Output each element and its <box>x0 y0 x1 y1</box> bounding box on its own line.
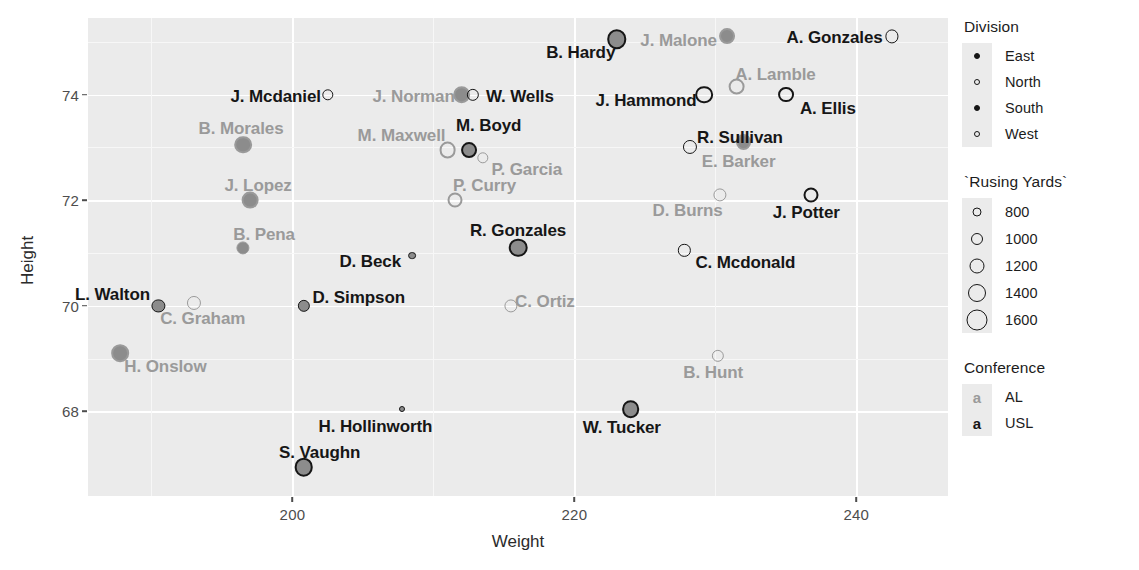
x-axis-tick-mark <box>856 497 858 502</box>
grid-line-horizontal <box>88 200 948 202</box>
grid-line-horizontal <box>88 411 948 413</box>
legend-item-rushing-yards-1600[interactable]: 1600 <box>962 306 1137 333</box>
y-axis-tick-mark <box>82 305 87 307</box>
legend-item-division-north[interactable]: North <box>962 69 1137 95</box>
data-point-label: L. Walton <box>75 285 150 305</box>
legend-key-size-marker <box>962 306 992 333</box>
data-point-label: D. Beck <box>339 252 401 272</box>
data-point-label: C. Ortiz <box>515 292 575 312</box>
data-point-label: J. Norman <box>372 87 454 107</box>
legend-conference: Conference aALaUSL <box>962 359 1137 436</box>
legend-division-title: Division <box>964 18 1137 36</box>
data-point-label: R. Sullivan <box>697 128 783 148</box>
y-axis-tick-label: 74 <box>62 86 79 103</box>
data-point-label: D. Simpson <box>312 288 405 308</box>
grid-line-horizontal-minor <box>88 359 948 360</box>
data-point-label: P. Curry <box>453 176 516 196</box>
data-point-label: M. Boyd <box>456 116 521 136</box>
legend-label-division: West <box>1005 126 1038 142</box>
letter-a-icon: a <box>973 389 981 406</box>
grid-line-vertical-minor <box>151 18 152 496</box>
legend-item-division-south[interactable]: South <box>962 95 1137 121</box>
x-axis-tick-label: 240 <box>844 506 870 523</box>
data-point-label: H. Onslow <box>124 357 206 377</box>
data-point-label: W. Tucker <box>583 418 661 438</box>
filled-circle-icon <box>974 105 980 111</box>
legend-key-division-marker <box>962 43 992 69</box>
legend-label-rushing-yards: 1400 <box>1005 285 1038 301</box>
legend-item-division-east[interactable]: East <box>962 43 1137 69</box>
data-point-label: A. Gonzales <box>786 28 882 48</box>
data-point-label: B. Hardy <box>546 43 615 63</box>
legend-label-division: South <box>1005 100 1043 116</box>
data-point-label: B. Pena <box>233 225 295 245</box>
legend-label-division: North <box>1005 74 1041 90</box>
data-point-label: J. Lopez <box>225 176 292 196</box>
data-point[interactable] <box>804 187 819 202</box>
open-circle-icon <box>974 79 980 85</box>
data-point-label: M. Maxwell <box>358 126 446 146</box>
data-point[interactable] <box>408 252 416 260</box>
data-point[interactable] <box>461 142 477 158</box>
legend-label-conference: AL <box>1005 389 1023 405</box>
data-point-label: J. Hammond <box>596 91 697 111</box>
legend-key-conference-glyph: a <box>962 410 992 436</box>
data-point[interactable] <box>778 87 794 103</box>
data-point-label: W. Wells <box>486 87 554 107</box>
legend-label-rushing-yards: 1200 <box>1005 258 1038 274</box>
filled-circle-icon <box>974 53 980 59</box>
legend-key-size-marker <box>962 198 992 225</box>
legend-item-conference-al[interactable]: aAL <box>962 384 1137 410</box>
grid-line-vertical <box>856 18 858 496</box>
data-point[interactable] <box>509 238 528 257</box>
x-axis-tick-mark <box>292 497 294 502</box>
legend-container: Division EastNorthSouthWest `Rusing Yard… <box>962 18 1137 462</box>
data-point[interactable] <box>695 86 713 104</box>
legend-key-size-marker <box>962 279 992 306</box>
legend-item-rushing-yards-1400[interactable]: 1400 <box>962 279 1137 306</box>
legend-label-rushing-yards: 800 <box>1005 204 1030 220</box>
data-point-label: R. Gonzales <box>470 221 566 241</box>
open-circle-icon <box>971 233 983 245</box>
open-circle-icon <box>973 207 982 216</box>
legend-rushing-yards-title: `Rusing Yards` <box>964 173 1137 191</box>
letter-a-icon: a <box>973 415 981 432</box>
y-axis-label: Height <box>18 236 38 285</box>
data-point[interactable] <box>399 406 405 412</box>
open-circle-icon <box>967 309 988 330</box>
legend-rushing-yards: `Rusing Yards` 8001000120014001600 <box>962 173 1137 333</box>
data-point-label: J. Mcdaniel <box>230 87 321 107</box>
y-axis-tick-label: 70 <box>62 297 79 314</box>
legend-key-division-marker <box>962 121 992 147</box>
x-axis-tick-label: 200 <box>280 506 306 523</box>
data-point[interactable] <box>622 400 640 418</box>
y-axis <box>0 0 88 536</box>
legend-division: Division EastNorthSouthWest <box>962 18 1137 147</box>
data-point-label: E. Barker <box>702 152 776 172</box>
legend-item-conference-usl[interactable]: aUSL <box>962 410 1137 436</box>
data-point-label: J. Potter <box>773 203 840 223</box>
legend-label-division: East <box>1005 48 1034 64</box>
open-circle-icon <box>974 131 980 137</box>
data-point-label: A. Ellis <box>800 99 856 119</box>
legend-item-rushing-yards-800[interactable]: 800 <box>962 198 1137 225</box>
legend-label-rushing-yards: 1600 <box>1005 312 1038 328</box>
scatter-plot-figure: Height Weight B. HardyJ. MaloneA. Gonzal… <box>0 0 1139 570</box>
legend-label-conference: USL <box>1005 415 1034 431</box>
legend-key-division-marker <box>962 95 992 121</box>
y-axis-tick-mark <box>82 199 87 201</box>
x-axis-tick-mark <box>574 497 576 502</box>
y-axis-tick-mark <box>82 94 87 96</box>
data-point-label: C. Graham <box>160 309 245 329</box>
data-point[interactable] <box>719 29 735 45</box>
legend-item-rushing-yards-1200[interactable]: 1200 <box>962 252 1137 279</box>
legend-item-rushing-yards-1000[interactable]: 1000 <box>962 225 1137 252</box>
legend-key-size-marker <box>962 225 992 252</box>
data-point-label: H. Hollinworth <box>318 417 432 437</box>
legend-key-division-marker <box>962 69 992 95</box>
open-circle-icon <box>968 284 986 302</box>
y-axis-tick-label: 72 <box>62 192 79 209</box>
legend-item-division-west[interactable]: West <box>962 121 1137 147</box>
legend-conference-title: Conference <box>964 359 1137 377</box>
y-axis-tick-label: 68 <box>62 403 79 420</box>
